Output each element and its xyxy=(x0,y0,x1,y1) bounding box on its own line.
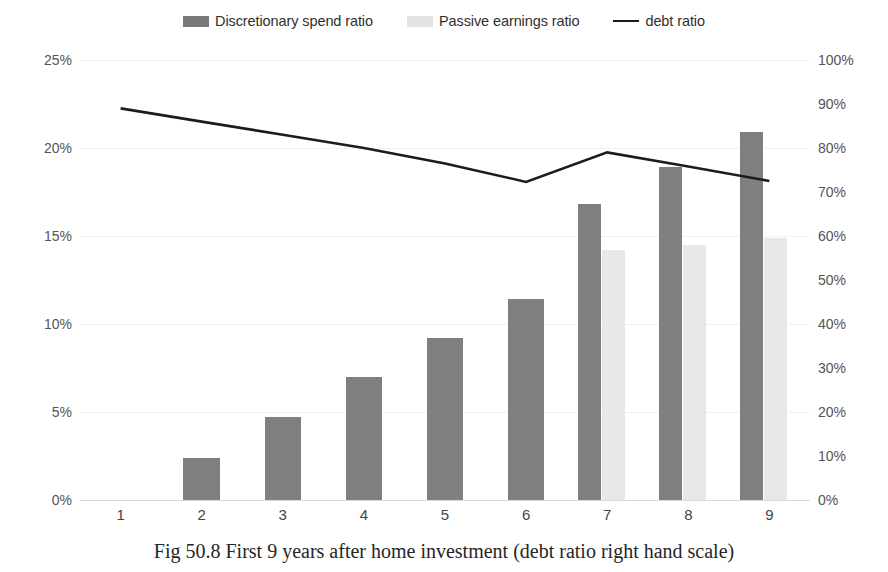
y-axis-right-tick-label: 20% xyxy=(818,404,882,420)
y-axis-right-tick-label: 60% xyxy=(818,228,882,244)
y-axis-left-tick-label: 5% xyxy=(2,404,72,420)
legend-label-discretionary-spend-ratio: Discretionary spend ratio xyxy=(215,13,373,29)
legend-item-passive-earnings-ratio: Passive earnings ratio xyxy=(407,13,579,29)
y-axis-left-tick-label: 10% xyxy=(2,316,72,332)
y-axis-right-tick-label: 50% xyxy=(818,272,882,288)
y-axis-right-tick-label: 100% xyxy=(818,52,882,68)
light-swatch-icon xyxy=(407,16,433,27)
x-axis-tick-label: 8 xyxy=(658,506,718,523)
y-axis-right-tick-label: 10% xyxy=(818,448,882,464)
x-axis-tick-label: 1 xyxy=(91,506,151,523)
y-axis-left-tick-label: 0% xyxy=(2,492,72,508)
x-axis-tick-label: 7 xyxy=(577,506,637,523)
y-axis-left-tick-label: 20% xyxy=(2,140,72,156)
x-axis-tick-label: 3 xyxy=(253,506,313,523)
debt-ratio-line-series xyxy=(80,60,810,500)
y-axis-right-tick-label: 70% xyxy=(818,184,882,200)
plot-area xyxy=(80,60,810,500)
y-axis-right-tick-label: 90% xyxy=(818,96,882,112)
legend-label-passive-earnings-ratio: Passive earnings ratio xyxy=(439,13,579,29)
line-marker-icon xyxy=(613,20,639,22)
x-axis-tick-label: 9 xyxy=(739,506,799,523)
x-axis-tick-label: 4 xyxy=(334,506,394,523)
x-axis-tick-label: 6 xyxy=(496,506,556,523)
legend-item-discretionary-spend-ratio: Discretionary spend ratio xyxy=(183,13,373,29)
y-axis-right-tick-label: 40% xyxy=(818,316,882,332)
dark-swatch-icon xyxy=(183,16,209,27)
x-axis-tick-label: 5 xyxy=(415,506,475,523)
y-axis-right-tick-label: 30% xyxy=(818,360,882,376)
legend-item-debt-ratio: debt ratio xyxy=(613,13,704,29)
y-axis-left-tick-label: 25% xyxy=(2,52,72,68)
y-axis-right-tick-label: 80% xyxy=(818,140,882,156)
x-axis-tick-label: 2 xyxy=(172,506,232,523)
y-axis-right-tick-label: 0% xyxy=(818,492,882,508)
chart-figure: Discretionary spend ratio Passive earnin… xyxy=(0,0,888,572)
legend-label-debt-ratio: debt ratio xyxy=(645,13,704,29)
figure-caption: Fig 50.8 First 9 years after home invest… xyxy=(0,540,888,563)
y-axis-left-tick-label: 15% xyxy=(2,228,72,244)
chart-legend: Discretionary spend ratio Passive earnin… xyxy=(0,8,888,34)
